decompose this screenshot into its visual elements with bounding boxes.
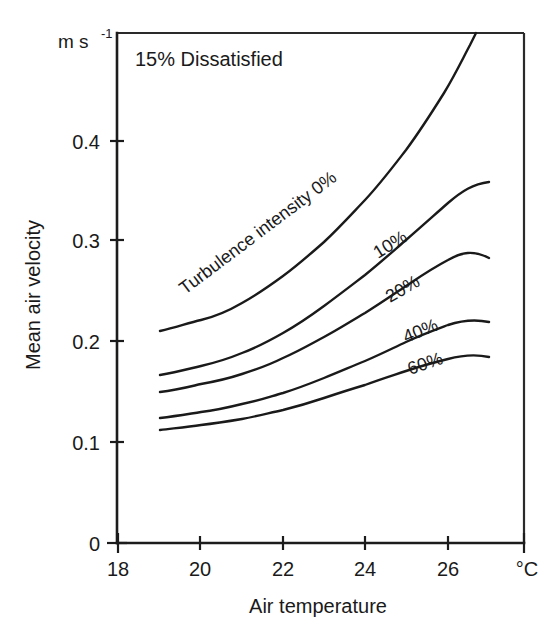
x-axis-title: Air temperature: [249, 595, 387, 617]
x-axis-unit-label: °C: [516, 558, 538, 580]
y-tick-labels: 0 0.1 0.2 0.3 0.4: [72, 131, 100, 555]
curve-label-10pct: 10%: [370, 226, 411, 262]
y-axis-title: Mean air velocity: [22, 220, 44, 370]
curve-turbulence-40pct: [160, 320, 489, 418]
y-tick-label-0.4: 0.4: [72, 131, 100, 153]
x-tick-labels: 18 20 22 24 26 °C: [107, 558, 538, 580]
y-tick-label-0.3: 0.3: [72, 230, 100, 252]
dissatisfied-annotation: 15% Dissatisfied: [135, 48, 283, 70]
x-tick-label-18: 18: [107, 558, 129, 580]
x-tick-label-26: 26: [437, 558, 459, 580]
curve-set: [160, 33, 489, 430]
y-tick-label-0: 0: [89, 533, 100, 555]
x-tick-label-24: 24: [354, 558, 376, 580]
curve-label-0pct: Turbulence intensity 0%: [175, 167, 340, 298]
chart-figure: m s -1 0 0.1 0.2 0.3 0.4 18 20 22 24 26 …: [0, 0, 557, 628]
y-unit-exponent: -1: [101, 26, 113, 41]
y-tick-label-0.1: 0.1: [72, 432, 100, 454]
curve-label-40pct: 40%: [400, 315, 441, 347]
y-unit-label-group: m s -1: [58, 26, 113, 52]
curve-label-20pct: 20%: [382, 271, 423, 306]
chart-canvas: m s -1 0 0.1 0.2 0.3 0.4 18 20 22 24 26 …: [0, 0, 557, 628]
x-tick-label-22: 22: [272, 558, 294, 580]
curve-label-60pct: 60%: [405, 348, 446, 379]
plot-frame: [117, 33, 524, 543]
y-tick-label-0.2: 0.2: [72, 331, 100, 353]
y-unit-label: m s: [58, 31, 89, 52]
x-tick-label-20: 20: [189, 558, 211, 580]
